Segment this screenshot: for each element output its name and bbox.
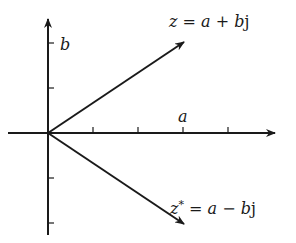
z-conjugate-equation-label: z* = a − bj	[169, 198, 256, 218]
imaginary-axis-label: b	[60, 35, 70, 54]
z-conjugate-vector-arrow	[48, 133, 184, 224]
z-vector-arrow	[48, 42, 184, 133]
z-equation-label: z = a + bj	[168, 12, 249, 31]
complex-plane-diagram: b a z = a + bj z* = a − bj	[0, 0, 296, 243]
real-axis-label: a	[178, 107, 188, 126]
